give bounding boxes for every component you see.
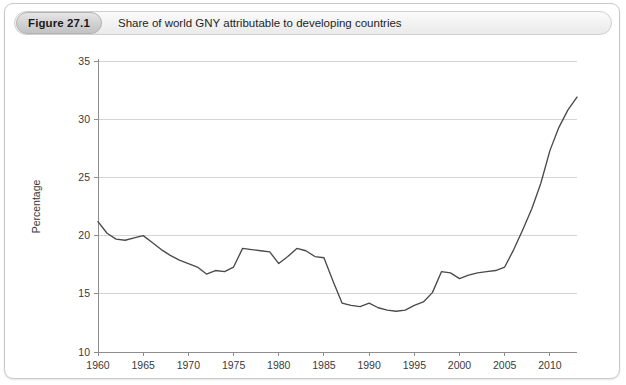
y-axis-title: Percentage — [30, 179, 42, 233]
y-tick-label: 25 — [78, 171, 90, 183]
figure-number-badge: Figure 27.1 — [16, 12, 102, 34]
chart-area: 101520253035 196019651970197519801985199… — [14, 42, 614, 375]
figure-caption-text: Share of world GNY attributable to devel… — [118, 17, 402, 29]
x-tick-label: 1980 — [267, 359, 291, 371]
x-tick-label: 1965 — [132, 359, 156, 371]
y-tick-label: 20 — [78, 229, 90, 241]
x-tick-label: 1975 — [222, 359, 246, 371]
x-tick-label: 2005 — [493, 359, 517, 371]
x-tick-label: 1970 — [177, 359, 201, 371]
figure-caption-bar: Figure 27.1 Share of world GNY attributa… — [14, 11, 612, 35]
x-tick-label: 2000 — [448, 359, 472, 371]
y-axis-ticks: 101520253035 — [78, 55, 98, 358]
y-tick-label: 10 — [78, 346, 90, 358]
line-chart: 101520253035 196019651970197519801985199… — [14, 42, 614, 375]
x-tick-label: 1985 — [312, 359, 336, 371]
y-tick-label: 15 — [78, 287, 90, 299]
x-tick-label: 1990 — [357, 359, 381, 371]
figure-frame: Figure 27.1 Share of world GNY attributa… — [4, 3, 620, 379]
x-axis-ticks: 1960196519701975198019851990199520002005… — [86, 352, 561, 371]
y-tick-label: 30 — [78, 113, 90, 125]
y-tick-label: 35 — [78, 55, 90, 67]
x-tick-label: 1960 — [86, 359, 110, 371]
x-tick-label: 2010 — [538, 359, 562, 371]
gridlines — [98, 61, 577, 294]
data-series-line — [98, 97, 577, 311]
x-tick-label: 1995 — [403, 359, 427, 371]
